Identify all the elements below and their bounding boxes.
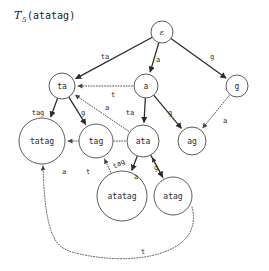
tree-edge-label-a-ag: g	[168, 109, 172, 117]
node-label-ta: ta	[57, 82, 67, 91]
node-label-ag: ag	[187, 137, 197, 146]
tree-edge-label-root-g: g	[210, 53, 214, 61]
node-root[interactable]: ε	[151, 21, 173, 43]
suffix-link-label-atag-ata: a	[134, 173, 138, 181]
node-label-atatag: atatag	[108, 192, 137, 201]
tree-edge-ata-atatag	[132, 156, 137, 170]
node-atatag[interactable]: atatag	[97, 171, 147, 221]
tree-edge-label-ta-tatag: tag	[32, 109, 45, 117]
figure-canvas: T 5 (atatag) εtaagtatagtagataagatatagata…	[0, 0, 269, 271]
suffix-link-label-g-ag: a	[223, 117, 227, 125]
node-g[interactable]: g	[226, 75, 248, 97]
node-a[interactable]: a	[134, 74, 158, 98]
node-atag[interactable]: atag	[154, 177, 192, 215]
node-label-ata: ata	[136, 137, 151, 146]
node-ag[interactable]: ag	[178, 127, 206, 155]
node-ata[interactable]: ata	[127, 125, 159, 157]
tree-edge-label-ta-tag: g	[81, 109, 85, 117]
suffix-link-label-atag-tatag: t	[141, 248, 145, 256]
title-argument: (atatag)	[27, 10, 75, 21]
tree-edge-ta-tatag	[51, 98, 58, 117]
node-label-a: a	[144, 82, 149, 91]
node-ta[interactable]: ta	[49, 73, 75, 99]
suffix-link-label-a-ta: t	[111, 91, 115, 99]
node-label-g: g	[235, 82, 240, 91]
tree-edge-label-a-ata: ta	[126, 109, 134, 117]
node-label-root: ε	[160, 28, 164, 37]
tree-edge-root-ta	[76, 37, 153, 78]
tree-nodes: εtaagtatagtagataagatatagatag	[19, 21, 248, 221]
suffix-link-label-atatag-tag: t	[86, 168, 90, 176]
node-tatag[interactable]: tatag	[19, 118, 65, 164]
node-tag[interactable]: tag	[79, 124, 113, 158]
tree-edge-label-root-a: a	[156, 56, 160, 64]
suffix-link-atatag-tag	[105, 159, 111, 172]
tree-edge-label-ata-atatag: tag	[112, 157, 127, 170]
tree-diagram: T 5 (atatag) εtaagtatagtagataagatatagata…	[0, 0, 269, 271]
node-label-atag: atag	[163, 192, 182, 201]
suffix-link-label-ata-tatag: a	[62, 168, 66, 176]
tree-edge-root-g	[171, 38, 226, 78]
tree-edge-label-ata-atag: g	[154, 164, 158, 172]
figure-title: T 5 (atatag)	[14, 9, 75, 24]
tree-edge-label-root-ta: ta	[101, 53, 109, 61]
tree-edge-a-ata	[144, 98, 145, 123]
node-label-tatag: tatag	[30, 137, 54, 146]
node-label-tag: tag	[89, 137, 104, 146]
suffix-link-label-ata-ta: a	[105, 104, 109, 112]
